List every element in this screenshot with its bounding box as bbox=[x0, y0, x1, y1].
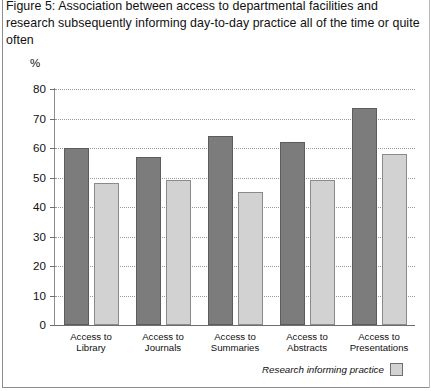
y-tick-label-20: 20 bbox=[6, 260, 46, 272]
y-tick-label-50: 50 bbox=[6, 172, 46, 184]
figure-title: Figure 5: Association between access to … bbox=[6, 0, 426, 50]
y-tick-label-80: 80 bbox=[6, 83, 46, 95]
y-tick-label-0: 0 bbox=[6, 319, 46, 331]
y-tick-label-30: 30 bbox=[6, 231, 46, 243]
x-axis-category-label: Access to Library bbox=[55, 331, 127, 354]
legend-label: Research informing practice bbox=[262, 364, 384, 375]
x-axis-category-label: Access to Journals bbox=[127, 331, 199, 354]
y-tick-label-40: 40 bbox=[6, 201, 46, 213]
bar bbox=[94, 183, 119, 325]
bar bbox=[238, 192, 263, 325]
figure-container: Figure 5: Association between access to … bbox=[0, 0, 431, 391]
bar bbox=[166, 180, 191, 325]
y-tick-label-10: 10 bbox=[6, 290, 46, 302]
legend: Research informing practice bbox=[262, 363, 403, 376]
x-axis-category-label: Access to Abstracts bbox=[271, 331, 343, 354]
page-frame-bottom-rule bbox=[2, 387, 429, 388]
y-tick-label-70: 70 bbox=[6, 113, 46, 125]
y-tick-label-wrap-50: 50 bbox=[0, 172, 46, 184]
bar bbox=[64, 148, 89, 325]
y-tick-label-wrap-70: 70 bbox=[0, 113, 46, 125]
y-tick-0 bbox=[50, 325, 55, 326]
gridline-80 bbox=[55, 89, 415, 90]
y-tick-label-wrap-20: 20 bbox=[0, 260, 46, 272]
y-tick-label-wrap-80: 80 bbox=[0, 83, 46, 95]
bar bbox=[352, 108, 377, 325]
y-tick-label-60: 60 bbox=[6, 142, 46, 154]
plot-area bbox=[55, 89, 415, 325]
bar bbox=[310, 180, 335, 325]
bar bbox=[136, 157, 161, 325]
x-axis-category-label: Access to Summaries bbox=[199, 331, 271, 354]
x-axis-line bbox=[54, 325, 415, 326]
y-tick-label-wrap-10: 10 bbox=[0, 290, 46, 302]
bar bbox=[382, 154, 407, 325]
bar bbox=[280, 142, 305, 325]
y-tick-label-wrap-30: 30 bbox=[0, 231, 46, 243]
y-tick-label-wrap-0: 0 bbox=[0, 319, 46, 331]
bar bbox=[208, 136, 233, 325]
y-axis-unit-label: % bbox=[30, 57, 40, 69]
legend-swatch bbox=[390, 363, 403, 376]
page-frame-right-rule bbox=[429, 0, 430, 388]
y-tick-label-wrap-60: 60 bbox=[0, 142, 46, 154]
x-axis-category-label: Access to Presentations bbox=[343, 331, 415, 354]
y-tick-label-wrap-40: 40 bbox=[0, 201, 46, 213]
